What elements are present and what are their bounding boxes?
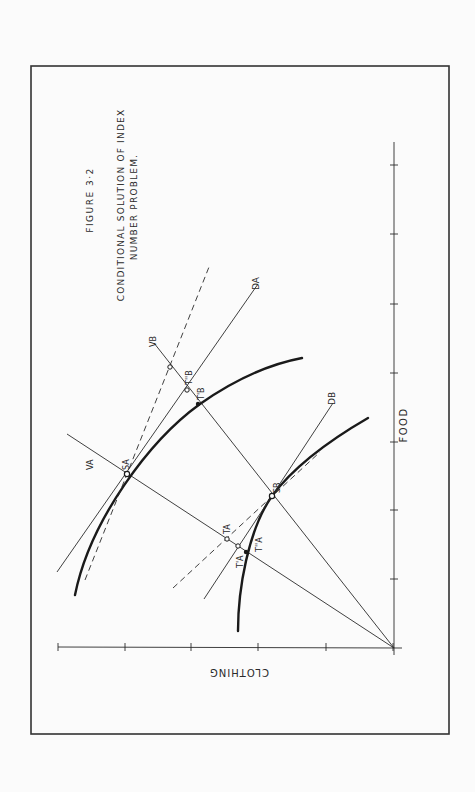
label-SB: SB: [273, 482, 282, 493]
point-TA-dprime: [244, 550, 248, 554]
label-DA: DA: [251, 276, 261, 290]
point-TB: [196, 402, 200, 406]
point-TA: [225, 537, 229, 541]
label-DB: DB: [327, 392, 337, 405]
label-SA: SA: [122, 459, 131, 470]
clothing-axis: [58, 643, 402, 651]
figure-number: FIGURE 3·2: [85, 167, 95, 233]
label-VA: VA: [86, 459, 95, 470]
clothing-axis-label: CLOTHING: [209, 667, 269, 678]
figure-title-line2: NUMBER PROBLEM.: [129, 154, 139, 260]
label-TA: TA: [223, 524, 232, 535]
label-TB-dprime: T''B: [185, 370, 194, 386]
line-DB: [204, 403, 333, 599]
label-TB-prime: T'B: [197, 387, 206, 401]
indifference-curve-B: [238, 418, 368, 631]
label-TA-prime: T'A: [236, 555, 245, 569]
indifference-curve-A: [75, 358, 302, 595]
point-TB-prime: [185, 388, 189, 392]
point-TA-prime: [236, 544, 240, 548]
label-TA-dprime: T''A: [255, 537, 264, 553]
figure-canvas: FOOD CLOTHING FIGURE 3·2 CONDITIONAL SOL…: [0, 0, 475, 792]
food-axis: [390, 142, 398, 655]
figure-frame: [31, 66, 449, 734]
dashed-line-A: [85, 267, 209, 580]
food-axis-label: FOOD: [398, 407, 409, 442]
label-VB: VB: [149, 336, 158, 347]
figure-title-line1: CONDITIONAL SOLUTION OF INDEX: [116, 109, 126, 302]
point-SB: [269, 493, 274, 498]
ray-VA: [67, 434, 394, 648]
dashed-line-B: [173, 452, 320, 588]
point-TB-dprime: [168, 365, 172, 369]
point-SA: [124, 471, 129, 476]
